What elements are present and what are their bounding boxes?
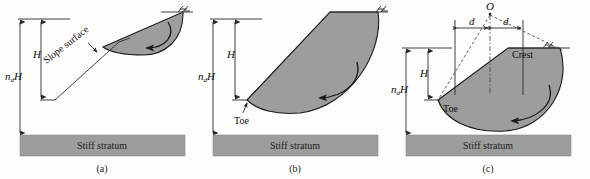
caption-a: (a) (96, 163, 107, 175)
panel-c: O d d H ndH Crest (391, 0, 571, 175)
label-ndH-b: ndH (198, 70, 216, 84)
label-stiff-stratum-c: Stiff stratum (463, 140, 513, 151)
label-toe-c: Toe (443, 103, 458, 114)
label-stiff-stratum-b: Stiff stratum (270, 140, 320, 151)
toe-leader-b (243, 103, 247, 113)
label-stiff-stratum-a: Stiff stratum (77, 140, 127, 151)
label-center-O-c: O (486, 0, 494, 12)
slope-surface-leader-a (88, 43, 97, 52)
label-d-left-c: d (469, 15, 475, 27)
radius-line-crest-c (490, 15, 562, 50)
label-slope-surface-a: Slope surface (41, 23, 91, 65)
ground-surface-hatch-icon (178, 6, 190, 12)
label-ndH-c: ndH (391, 83, 409, 97)
panel-b: H ndH Toe Stiff stratum (b) (198, 6, 388, 175)
failure-mass-b (247, 12, 379, 113)
label-H-c: H (419, 67, 429, 79)
failure-mass-c (438, 48, 563, 131)
caption-c: (c) (482, 163, 493, 175)
label-H-a: H (32, 48, 42, 60)
ground-surface-hatch-icon-b (376, 6, 388, 12)
ground-surface-hatch-icon-c (543, 42, 555, 48)
slope-stability-figure: H ndH Slope surface Stiff stratum (a) (0, 0, 590, 179)
center-point-c (489, 13, 492, 16)
label-toe-b: Toe (234, 115, 249, 126)
label-ndH-a: ndH (5, 70, 23, 84)
caption-b: (b) (289, 163, 301, 175)
label-crest-c: Crest (512, 49, 533, 60)
panel-a: H ndH Slope surface Stiff stratum (a) (5, 6, 193, 175)
label-d-right-c: d (503, 15, 509, 27)
label-H-b: H (226, 48, 236, 60)
